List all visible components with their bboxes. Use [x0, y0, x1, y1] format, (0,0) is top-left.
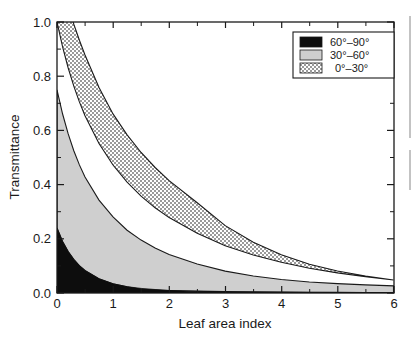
y-tick-label-2: 0.4	[33, 177, 51, 192]
legend-label-0-30: 0°–30°	[335, 62, 368, 74]
figure-container: 0 1 2 3 4 5 6 0.0 0.2 0.4 0.6 0.8 1.0 Le…	[0, 0, 417, 338]
x-tick-label-6: 6	[390, 296, 397, 311]
legend: 60°–90° 30°–60° 0°–30°	[293, 32, 394, 78]
legend-label-30-60: 30°–60°	[330, 49, 369, 61]
y-tick-label-3: 0.6	[33, 123, 51, 138]
legend-swatch-30-60	[300, 50, 322, 60]
y-tick-label-5: 1.0	[33, 15, 51, 30]
y-tick-label-4: 0.8	[33, 69, 51, 84]
x-axis-title: Leaf area index	[178, 316, 271, 331]
page-edge-artifact	[409, 16, 411, 138]
legend-swatch-60-90	[300, 37, 322, 47]
legend-swatch-0-30	[300, 63, 322, 73]
y-axis-title: Transmittance	[7, 114, 22, 199]
y-tick-label-0: 0.0	[33, 286, 51, 301]
x-tick-labels: 0 1 2 3 4 5 6	[53, 296, 397, 311]
x-tick-label-0: 0	[53, 296, 60, 311]
x-tick-label-4: 4	[278, 296, 285, 311]
x-tick-label-2: 2	[166, 296, 173, 311]
transmittance-chart: 0 1 2 3 4 5 6 0.0 0.2 0.4 0.6 0.8 1.0 Le…	[0, 0, 417, 338]
page-edge-artifact-lower	[409, 150, 411, 190]
y-tick-labels: 0.0 0.2 0.4 0.6 0.8 1.0	[33, 15, 51, 301]
x-tick-label-5: 5	[334, 296, 341, 311]
legend-label-60-90: 60°–90°	[330, 36, 369, 48]
x-tick-label-1: 1	[110, 296, 117, 311]
y-tick-label-1: 0.2	[33, 231, 51, 246]
x-tick-label-3: 3	[222, 296, 229, 311]
